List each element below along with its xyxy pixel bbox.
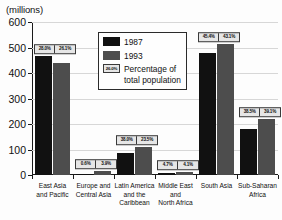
percentage-callout: 4.7%4.1% [157, 161, 199, 171]
legend-item-1993: 1993 [103, 51, 181, 62]
bar-1987 [199, 53, 216, 175]
x-tick-mark [155, 175, 156, 179]
bar-1987 [76, 174, 93, 176]
percentage-value-1993: 3.9% [95, 161, 115, 169]
percentage-value-1987: 38.5% [240, 109, 259, 117]
gray-square-icon [103, 51, 120, 60]
x-tick-mark [73, 175, 74, 179]
x-category-label: East Asiaand Pacific [30, 182, 76, 199]
bar-1993 [94, 171, 111, 175]
x-tick-mark [114, 175, 115, 179]
percent-box-icon: 26.0% [103, 64, 120, 73]
percentage-value-1993: 39.1% [259, 109, 279, 117]
x-category-label: Europe andCentral Asia [71, 182, 117, 199]
percentage-callout: 28.0%26.1% [34, 45, 76, 55]
bar-1993 [258, 119, 275, 175]
y-tick-label: 200 [8, 118, 26, 130]
bar-chart: (millions) 0100200300400500600 28.0%26.1… [0, 0, 282, 220]
percentage-value-1987: 45.4% [199, 34, 218, 42]
bar-1987 [117, 153, 134, 175]
x-tick-mark [278, 175, 279, 179]
y-tick-label: 500 [8, 42, 26, 54]
chart-legend: 1987 1993 26.0% Percentage of total popu… [98, 32, 187, 90]
bar-group [199, 22, 234, 175]
bar-1987 [35, 56, 52, 175]
legend-item-1987: 1987 [103, 37, 181, 48]
percentage-value-1987: 4.7% [158, 162, 177, 170]
x-tick-mark [196, 175, 197, 179]
legend-label-percentage: Percentage of total population [124, 64, 181, 85]
legend-label-1993: 1993 [124, 51, 143, 62]
y-tick-label: 600 [8, 16, 26, 28]
percentage-value-1993: 23.5% [136, 137, 156, 145]
x-category-label: Sub-SaharanAfrica [235, 182, 281, 199]
bar-1993 [217, 44, 234, 175]
y-tick-label: 300 [8, 93, 26, 105]
bar-group [240, 22, 275, 175]
x-category-label: Latin Americaand theCaribbean [112, 182, 158, 208]
y-tick-label: 100 [8, 144, 26, 156]
x-tick-mark [237, 175, 238, 179]
y-tick-label: 400 [8, 67, 26, 79]
percentage-value-1993: 26.1% [54, 46, 74, 54]
legend-label-1987: 1987 [124, 37, 143, 48]
percentage-value-1987: 28.0% [35, 46, 54, 54]
legend-item-percentage: 26.0% Percentage of total population [103, 64, 181, 85]
percentage-value-1993: 4.1% [177, 162, 197, 170]
x-tick-mark [32, 175, 33, 179]
percentage-value-1987: 0.6% [76, 161, 95, 169]
percentage-value-1987: 38.0% [117, 137, 136, 145]
black-square-icon [103, 37, 120, 46]
bar-1987 [158, 173, 175, 175]
bar-1993 [176, 172, 193, 175]
percentage-value-1993: 43.1% [218, 34, 238, 42]
percentage-callout: 38.0%23.5% [116, 136, 158, 146]
y-tick-label: 0 [20, 169, 26, 181]
bar-1987 [240, 129, 257, 175]
bar-1993 [135, 147, 152, 175]
percentage-callout: 38.5%39.1% [239, 108, 281, 118]
y-axis-unit-label: (millions) [6, 4, 43, 15]
x-category-label: Middle EastandNorth Africa [153, 182, 199, 208]
percentage-callout: 45.4%43.1% [198, 33, 240, 43]
percentage-callout: 0.6%3.9% [75, 160, 117, 170]
x-category-label: South Asia [194, 182, 240, 191]
bar-1993 [53, 63, 70, 175]
